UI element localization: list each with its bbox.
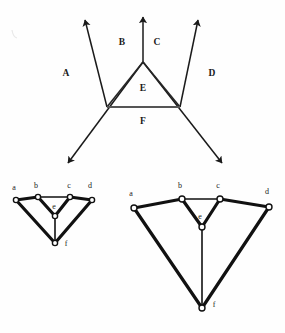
small-edge-c-d xyxy=(70,197,92,200)
large-planar-graph: a b c d e f xyxy=(129,181,272,311)
large-node-label-e: e xyxy=(198,212,202,221)
figure-root: A B C D E F xyxy=(0,0,285,333)
large-edge-c-d xyxy=(220,199,269,207)
region-label-e: E xyxy=(140,83,146,93)
large-edge-d-f xyxy=(202,207,269,308)
small-node-d[interactable] xyxy=(89,197,94,202)
large-edge-a-b xyxy=(134,199,182,208)
large-node-label-b: b xyxy=(178,181,182,190)
small-node-label-c: c xyxy=(67,181,71,190)
small-node-e[interactable] xyxy=(52,213,57,218)
large-node-b[interactable] xyxy=(179,196,185,202)
small-node-b[interactable] xyxy=(35,194,40,199)
large-node-f[interactable] xyxy=(199,305,205,311)
large-node-label-f: f xyxy=(213,300,216,309)
large-node-d[interactable] xyxy=(266,204,272,210)
small-node-label-d: d xyxy=(88,181,92,190)
large-node-label-d: d xyxy=(265,187,269,196)
large-node-label-c: c xyxy=(216,181,220,190)
small-edge-a-f xyxy=(16,200,55,243)
large-graph-node-labels: a b c d e f xyxy=(129,181,269,309)
region-label-group: A B C D E F xyxy=(63,37,216,126)
large-node-e[interactable] xyxy=(199,224,205,230)
small-edge-c-e xyxy=(55,197,70,216)
small-node-c[interactable] xyxy=(67,194,72,199)
small-node-a[interactable] xyxy=(13,197,18,202)
triangle-edge-apex-right xyxy=(143,62,180,107)
region-label-f: F xyxy=(140,116,146,126)
triangle-edge-apex-left xyxy=(107,62,143,107)
large-edge-c-e xyxy=(202,199,220,227)
large-node-label-a: a xyxy=(129,189,133,198)
region-label-c: C xyxy=(154,37,161,47)
small-node-label-b: b xyxy=(34,181,38,190)
ray-upper-left xyxy=(85,20,107,107)
small-edge-a-b xyxy=(16,197,38,200)
ray-upper-right xyxy=(180,20,198,107)
region-label-b: B xyxy=(119,37,126,47)
small-node-label-f: f xyxy=(65,239,68,248)
small-planar-graph: a b c d e f xyxy=(12,181,94,248)
small-node-f[interactable] xyxy=(52,240,57,245)
diagram-canvas: A B C D E F xyxy=(0,0,285,333)
region-label-a: A xyxy=(63,68,70,78)
large-node-a[interactable] xyxy=(131,205,137,211)
ray-region-diagram: A B C D E F xyxy=(63,17,222,163)
small-node-label-a: a xyxy=(12,183,16,192)
small-node-label-e: e xyxy=(52,202,56,211)
scan-smudge xyxy=(12,30,17,38)
region-label-d: D xyxy=(209,68,216,78)
large-edge-a-f xyxy=(134,208,202,308)
large-node-c[interactable] xyxy=(217,196,223,202)
